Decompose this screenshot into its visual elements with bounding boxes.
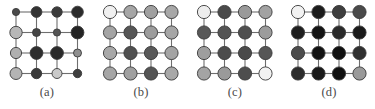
lattice-node xyxy=(52,7,62,17)
lattice-node xyxy=(10,68,22,80)
figure-container: (a)(b)(c)(d) xyxy=(0,0,375,109)
lattice-nodes xyxy=(197,5,272,80)
lattice-edges xyxy=(298,12,360,74)
lattice-node xyxy=(103,67,116,80)
lattice-node xyxy=(144,67,157,80)
lattice-node xyxy=(332,67,345,80)
lattice-node xyxy=(31,68,41,78)
lattice-node xyxy=(72,6,84,18)
panel-b: (b) xyxy=(94,0,188,109)
lattice-node xyxy=(353,46,366,59)
lattice-node xyxy=(124,5,137,18)
lattice-node xyxy=(165,67,178,80)
lattice-svg xyxy=(188,0,282,84)
lattice-node xyxy=(238,67,251,80)
lattice-node xyxy=(291,46,304,59)
lattice-node xyxy=(52,69,62,79)
lattice-node xyxy=(71,26,84,39)
lattice-node xyxy=(353,26,366,39)
lattice-node xyxy=(218,67,231,80)
panel-label: (d) xyxy=(282,84,375,100)
lattice-node xyxy=(103,5,116,18)
lattice-diagram xyxy=(188,0,282,84)
lattice-node xyxy=(30,47,43,60)
lattice-node xyxy=(124,67,137,80)
lattice-node xyxy=(10,47,21,58)
lattice-svg xyxy=(282,0,375,84)
lattice-node xyxy=(124,26,137,39)
lattice-node xyxy=(332,5,345,18)
lattice-node xyxy=(197,67,210,80)
lattice-node xyxy=(259,46,272,59)
lattice-node xyxy=(31,7,42,18)
lattice-node xyxy=(144,5,157,18)
lattice-node xyxy=(197,46,210,59)
lattice-node xyxy=(291,26,304,39)
lattice-node xyxy=(218,26,231,39)
lattice-node xyxy=(259,67,272,80)
lattice-node xyxy=(197,5,210,18)
lattice-node xyxy=(238,5,251,18)
lattice-node xyxy=(144,26,157,39)
panel-label: (b) xyxy=(94,84,188,100)
lattice-node xyxy=(74,49,82,57)
lattice-node xyxy=(165,46,178,59)
panel-label: (c) xyxy=(188,84,282,100)
lattice-node xyxy=(312,26,325,39)
lattice-node xyxy=(238,26,251,39)
lattice-node xyxy=(10,26,22,38)
panel-a: (a) xyxy=(0,0,94,109)
lattice-svg xyxy=(94,0,188,84)
lattice-node xyxy=(312,67,325,80)
lattice-node xyxy=(165,5,178,18)
lattice-node xyxy=(144,46,157,59)
lattice-node xyxy=(197,26,210,39)
lattice-nodes xyxy=(103,5,178,80)
lattice-node xyxy=(53,29,60,36)
lattice-node xyxy=(312,46,325,59)
lattice-edges xyxy=(204,12,266,74)
lattice-node xyxy=(218,5,231,18)
lattice-edges xyxy=(110,12,172,74)
lattice-node xyxy=(332,26,345,39)
lattice-node xyxy=(291,5,304,18)
lattice-node xyxy=(353,5,366,18)
lattice-diagram xyxy=(94,0,188,84)
lattice-node xyxy=(291,67,304,80)
lattice-node xyxy=(238,46,251,59)
panel-c: (c) xyxy=(188,0,282,109)
panel-d: (d) xyxy=(282,0,375,109)
lattice-node xyxy=(103,26,116,39)
lattice-edges xyxy=(16,12,78,74)
lattice-diagram xyxy=(0,0,94,84)
lattice-node xyxy=(103,46,116,59)
lattice-node xyxy=(124,46,137,59)
lattice-node xyxy=(33,29,41,37)
lattice-node xyxy=(259,5,272,18)
lattice-node xyxy=(259,26,272,39)
lattice-node xyxy=(332,46,345,59)
panel-label: (a) xyxy=(0,84,94,100)
lattice-node xyxy=(51,47,64,60)
lattice-node xyxy=(218,46,231,59)
lattice-diagram xyxy=(282,0,375,84)
lattice-node xyxy=(165,26,178,39)
lattice-node xyxy=(353,67,366,80)
lattice-node xyxy=(312,5,325,18)
lattice-node xyxy=(73,69,81,77)
lattice-nodes xyxy=(10,6,84,79)
lattice-svg xyxy=(0,0,94,84)
lattice-nodes xyxy=(291,5,366,80)
lattice-node xyxy=(12,8,19,15)
